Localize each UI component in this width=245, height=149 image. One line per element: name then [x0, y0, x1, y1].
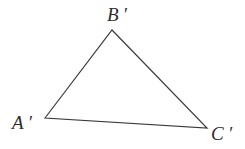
vertex-label-b-prime: B ′ [107, 5, 127, 24]
vertex-label-c-prime: C ′ [211, 124, 232, 143]
geometry-figure-canvas: A ′ B ′ C ′ [0, 0, 245, 149]
vertex-label-a-prime: A ′ [12, 113, 32, 132]
triangle-outline [45, 30, 207, 128]
